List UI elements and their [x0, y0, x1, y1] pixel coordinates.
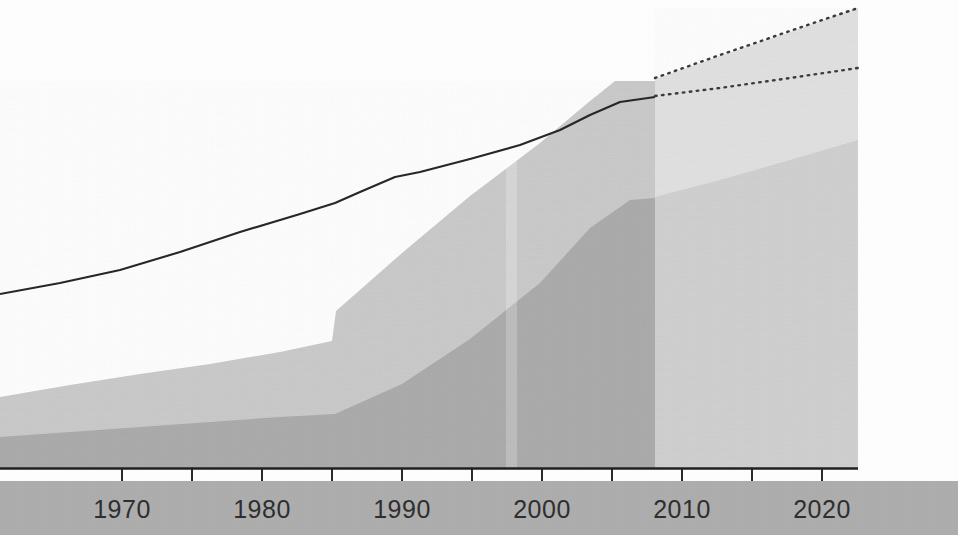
x-axis-label-1990: 1990: [373, 495, 431, 524]
area-chart-plot: [0, 0, 958, 535]
x-axis-label-2020: 2020: [793, 495, 851, 524]
x-axis-label-2010: 2010: [653, 495, 711, 524]
x-axis-label-2000: 2000: [513, 495, 571, 524]
vertical-highlight-stripe: [506, 150, 517, 468]
x-axis-label-1980: 1980: [233, 495, 291, 524]
projection-areas: [655, 8, 858, 468]
lower-band-area-projected: [655, 140, 858, 468]
x-axis-label-1970: 1970: [93, 495, 151, 524]
x-axis: [0, 469, 858, 483]
chart-container: 1970 1980 1990 2000 2010 2020: [0, 0, 958, 535]
